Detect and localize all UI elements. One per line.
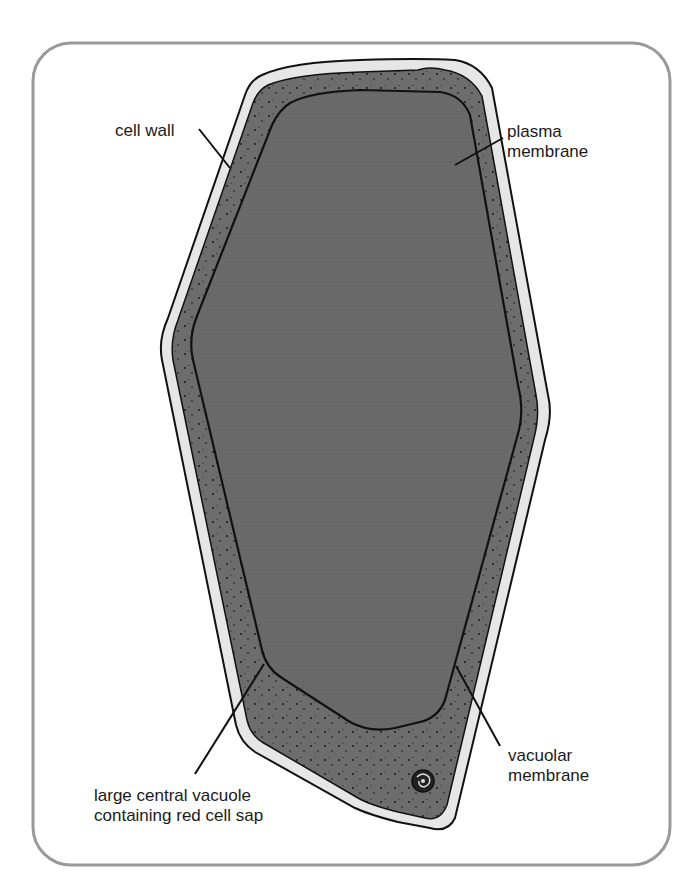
- label-vacuolar-membrane: vacuolar membrane: [508, 746, 589, 786]
- diagram-stage: cell wall plasma membrane vacuolar membr…: [0, 0, 683, 876]
- nucleus-icon: [412, 770, 434, 792]
- label-plasma-membrane: plasma membrane: [507, 122, 588, 162]
- label-vacuole: large central vacuole containing red cel…: [94, 786, 263, 826]
- label-cell-wall: cell wall: [115, 121, 175, 141]
